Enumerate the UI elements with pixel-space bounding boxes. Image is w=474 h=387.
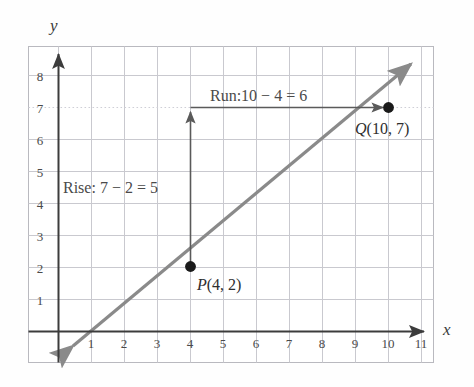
- x-tick-2: 2: [114, 337, 134, 350]
- x-tick-6: 6: [246, 337, 266, 350]
- coordinate-plane-figure: y x 8 7 6 5 4 3 2 1 1 2 3 4 5 6 7 8 9 10…: [0, 0, 474, 387]
- x-tick-4: 4: [180, 337, 200, 350]
- y-tick-7: 7: [30, 102, 50, 115]
- point-q-coords: (10, 7): [367, 120, 410, 137]
- x-tick-8: 8: [312, 337, 332, 350]
- run-annotation-text: Run:10 − 4 = 6: [210, 88, 307, 104]
- point-p-label: P(4, 2): [197, 277, 241, 293]
- point-p-letter: P: [197, 276, 207, 293]
- y-tick-8: 8: [30, 70, 50, 83]
- x-tick-1: 1: [81, 337, 101, 350]
- y-tick-2: 2: [30, 262, 50, 275]
- x-tick-9: 9: [345, 337, 365, 350]
- y-tick-3: 3: [30, 230, 50, 243]
- x-axis-label: x: [443, 320, 451, 340]
- y-axis-label: y: [50, 16, 58, 36]
- point-p-coords: (4, 2): [207, 276, 242, 293]
- y-tick-4: 4: [30, 198, 50, 211]
- x-tick-3: 3: [147, 337, 167, 350]
- x-tick-11: 11: [411, 337, 431, 350]
- point-q-marker: [383, 102, 394, 113]
- y-tick-5: 5: [30, 166, 50, 179]
- y-tick-6: 6: [30, 134, 50, 147]
- x-tick-7: 7: [279, 337, 299, 350]
- point-q-letter: Q: [355, 120, 367, 137]
- point-p-marker: [185, 261, 196, 272]
- point-q-label: Q(10, 7): [355, 121, 409, 137]
- x-tick-5: 5: [213, 337, 233, 350]
- x-tick-10: 10: [378, 337, 398, 350]
- rise-annotation-text: Rise: 7 − 2 = 5: [63, 180, 158, 196]
- y-tick-1: 1: [30, 294, 50, 307]
